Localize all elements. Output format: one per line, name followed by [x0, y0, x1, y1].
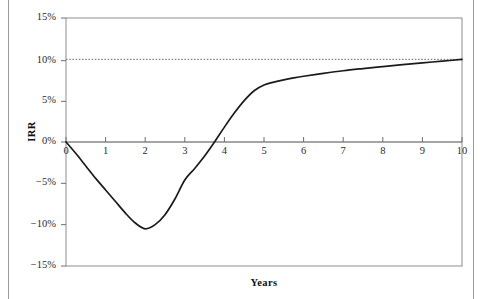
x-tick-label-9: 9 — [412, 145, 432, 156]
x-tick-label-5: 5 — [254, 145, 274, 156]
x-tick-label-6: 6 — [294, 145, 314, 156]
irr-j-curve-figure: 15% 10% 5% 0% −5% −10% −15% 0 1 2 3 4 5 … — [0, 0, 490, 299]
y-tick-label-15: 15% — [14, 11, 56, 22]
x-tick-label-8: 8 — [373, 145, 393, 156]
y-tick-label-neg5: −5% — [14, 176, 56, 187]
y-tick-label-neg15: −15% — [14, 259, 56, 270]
y-tick-label-10: 10% — [14, 54, 56, 65]
x-tick-label-4: 4 — [214, 145, 234, 156]
x-axis-title: Years — [66, 277, 462, 288]
x-tick-label-2: 2 — [135, 145, 155, 156]
x-tick-label-0: 0 — [56, 145, 76, 156]
x-tick-label-3: 3 — [175, 145, 195, 156]
x-tick-label-7: 7 — [333, 145, 353, 156]
x-tick-label-10: 10 — [452, 145, 472, 156]
x-tick-label-1: 1 — [96, 145, 116, 156]
y-tick-label-neg10: −10% — [14, 218, 56, 229]
y-axis-title: IRR — [26, 100, 37, 164]
